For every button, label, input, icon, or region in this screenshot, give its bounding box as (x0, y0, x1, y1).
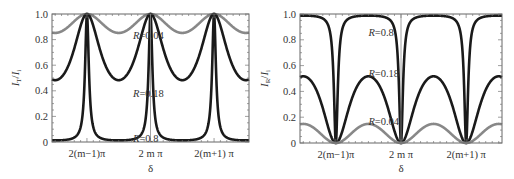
y-axis-label: IR/Ii (258, 70, 272, 88)
y-label-sub2: i (15, 70, 23, 72)
y-tick-label: 1.0 (283, 9, 296, 20)
curve-annotations: R=0.8 R=0.18 R=0.04 (367, 27, 399, 127)
y-label-sub2: i (264, 70, 272, 72)
y-tick-label: 0 (43, 137, 48, 148)
y-tick-labels: 0 0.2 0.4 0.6 0.8 1.0 (35, 9, 49, 148)
x-tick-labels: 2(m−1)π 2 m π 2(m+1) π (317, 149, 486, 161)
y-tick-label: 0.4 (35, 85, 49, 96)
x-tick-label: 2 m π (139, 148, 164, 159)
y-tick-label: 0.6 (35, 60, 48, 71)
x-axis-label: δ (398, 162, 403, 174)
y-tick-label: 0.2 (35, 111, 48, 122)
y-tick-label: 0.4 (283, 86, 297, 97)
curve-label-r004: R=0.04 (367, 116, 399, 127)
reflection-panel: 0 0.2 0.4 0.6 0.8 1.0 2(m−1)π 2 m π 2(m+… (258, 9, 502, 175)
y-axis-label: IT/Ii (9, 70, 23, 88)
y-tick-label: 0.2 (283, 112, 296, 123)
y-tick-label: 0.8 (283, 34, 296, 45)
y-tick-label: 1.0 (35, 9, 48, 20)
y-tick-label: 0.6 (283, 60, 296, 71)
transmission-panel: 0 0.2 0.4 0.6 0.8 1.0 2(m−1)π 2 m π 2(m+… (9, 9, 249, 175)
chart-figure: 0 0.2 0.4 0.6 0.8 1.0 2(m−1)π 2 m π 2(m+… (0, 0, 514, 179)
y-tick-label: 0.8 (35, 34, 48, 45)
curve-label-r018: R=0.18 (132, 88, 164, 99)
y-tick-label: 0 (291, 138, 296, 149)
curve-label-r004: R=0.04 (132, 30, 164, 41)
x-tick-labels: 2(m−1)π 2 m π 2(m+1) π (69, 148, 235, 160)
x-axis-label: δ (148, 162, 153, 174)
x-tick-label: 2(m+1) π (194, 148, 234, 160)
x-tick-label: 2(m−1)π (317, 149, 355, 161)
x-tick-label: 2(m+1) π (446, 149, 486, 161)
x-tick-label: 2(m−1)π (69, 148, 107, 160)
y-tick-labels: 0 0.2 0.4 0.6 0.8 1.0 (283, 9, 297, 149)
curve-label-r08: R=0.8 (367, 27, 393, 38)
x-tick-label: 2 m π (389, 149, 414, 160)
curve-label-r08: R=0.8 (132, 133, 158, 144)
curve-label-r018: R=0.18 (367, 68, 399, 79)
